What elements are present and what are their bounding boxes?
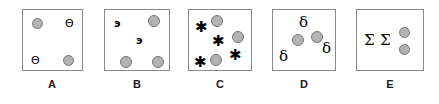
panel-box-e: ΣΣ [356,9,424,71]
gray-circle [232,31,244,43]
gray-circle [152,56,164,68]
gray-circle [292,34,304,46]
panel-label-c: C [200,77,240,91]
delta-symbol: δ [322,41,331,56]
panel-label-b: B [117,77,157,91]
gray-circle [120,56,132,68]
asterisk-symbol: ✱ [195,20,208,35]
panel-box-c: ✱✱✱✱ [188,9,252,71]
panel-label-d: D [284,77,324,91]
gray-circle [399,27,410,38]
theta-symbol: Θ [65,18,74,29]
asterisk-symbol: ✱ [229,48,242,63]
asterisk-symbol: ✱ [194,55,207,70]
gray-circle [32,18,43,29]
sigma-symbol: Σ [364,33,375,48]
theta-symbol: Θ [31,55,40,66]
delta-symbol: δ [279,49,288,64]
gray-circle [399,44,410,55]
panel-box-d: δδδ [272,9,336,71]
panel-figure: ΘΘээ✱✱✱✱δδδΣΣABCDE [0,0,439,104]
gray-circle [63,55,74,66]
panel-label-e: E [370,77,410,91]
gray-circle [211,15,223,27]
gray-circle [210,54,222,66]
reversed-e-symbol: э [114,18,121,29]
panel-box-a: ΘΘ [22,9,83,71]
sigma-symbol: Σ [380,33,391,48]
gray-circle [148,15,160,27]
asterisk-symbol: ✱ [212,34,225,49]
reversed-e-symbol: э [136,35,143,46]
panel-label-a: A [32,77,72,91]
delta-symbol: δ [299,15,308,30]
panel-box-b: ээ [104,9,170,71]
